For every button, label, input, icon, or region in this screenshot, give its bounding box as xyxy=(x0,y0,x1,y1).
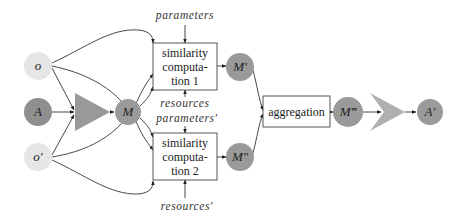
node-M-double-prime-label: M″ xyxy=(231,149,249,164)
label-resources: resources xyxy=(160,97,209,109)
node-A-label: A xyxy=(33,104,42,119)
sim2-line-1: similarity xyxy=(162,136,208,150)
node-M-double-prime: M″ xyxy=(226,143,254,171)
node-A: A xyxy=(24,98,52,126)
node-o: o xyxy=(24,52,52,80)
edge-Mdoubleprime-to-aggregation xyxy=(253,114,263,153)
edge-Mprime-to-aggregation xyxy=(253,70,263,110)
sim1-line-1: similarity xyxy=(162,46,208,60)
sim1-line-3: tion 1 xyxy=(171,74,199,88)
node-M: M xyxy=(115,99,141,125)
label-parameters-prime: parameters′ xyxy=(155,112,218,125)
edge-oprime-to-sim2-bottom xyxy=(52,160,153,194)
node-o-prime: o′ xyxy=(24,143,52,171)
box-aggregation: aggregation xyxy=(263,96,330,127)
aggregation-label: aggregation xyxy=(268,105,325,119)
sim2-line-2: computa- xyxy=(162,150,207,164)
edge-o-to-matcher xyxy=(52,68,74,110)
edge-M-to-sim1 xyxy=(140,87,153,106)
label-resources-prime: resources′ xyxy=(161,200,213,212)
node-M-triple-prime-label: M‴ xyxy=(339,104,358,119)
edge-oprime-to-matcher xyxy=(52,115,74,155)
node-A-prime-label: A′ xyxy=(424,104,436,119)
node-M-label: M xyxy=(122,104,135,119)
sim1-line-2: computa- xyxy=(162,60,207,74)
box-similarity-computation-2: similarity computa- tion 2 xyxy=(153,133,217,180)
node-A-prime: A′ xyxy=(417,99,443,125)
node-M-prime-label: M′ xyxy=(232,59,247,74)
sim2-line-3: tion 2 xyxy=(171,164,199,178)
node-o-label: o xyxy=(35,58,42,73)
edge-o-to-sim1-top xyxy=(52,30,153,63)
matcher-triangle-icon xyxy=(75,93,110,131)
node-M-prime: M′ xyxy=(226,53,254,81)
box-similarity-computation-1: similarity computa- tion 1 xyxy=(153,43,217,90)
node-M-triple-prime: M‴ xyxy=(333,97,363,127)
node-o-prime-label: o′ xyxy=(33,149,43,164)
label-parameters: parameters xyxy=(155,9,214,22)
matching-process-diagram: o A o′ M parameters resources parameters… xyxy=(0,0,465,223)
